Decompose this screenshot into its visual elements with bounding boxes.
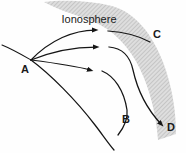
ray-b-segment-incoming bbox=[31, 60, 90, 70]
ionosphere-band-label: Ionosphere bbox=[61, 13, 116, 25]
earth-surface bbox=[2, 45, 31, 60]
ray-d-segment-incoming bbox=[31, 47, 96, 60]
earth-surface-left-arc bbox=[2, 45, 31, 60]
ray-steep-path bbox=[31, 60, 114, 150]
ray-b-segment-returning bbox=[102, 71, 127, 135]
ray-steep-segment bbox=[31, 60, 114, 150]
label-point-a: A bbox=[21, 63, 29, 75]
ray-c-segment-lower bbox=[31, 30, 95, 60]
label-point-d: D bbox=[167, 121, 175, 133]
label-point-c: C bbox=[153, 28, 161, 40]
ionosphere-diagram-figure: A B C D Ionosphere bbox=[0, 0, 186, 153]
diagram-canvas: A B C D Ionosphere bbox=[0, 0, 186, 153]
label-point-b: B bbox=[122, 113, 130, 125]
